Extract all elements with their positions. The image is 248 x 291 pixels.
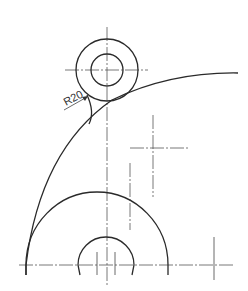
small-semicircle xyxy=(78,237,134,275)
large-outline-arc xyxy=(26,73,238,275)
technical-drawing-canvas: R20 xyxy=(0,0,248,291)
